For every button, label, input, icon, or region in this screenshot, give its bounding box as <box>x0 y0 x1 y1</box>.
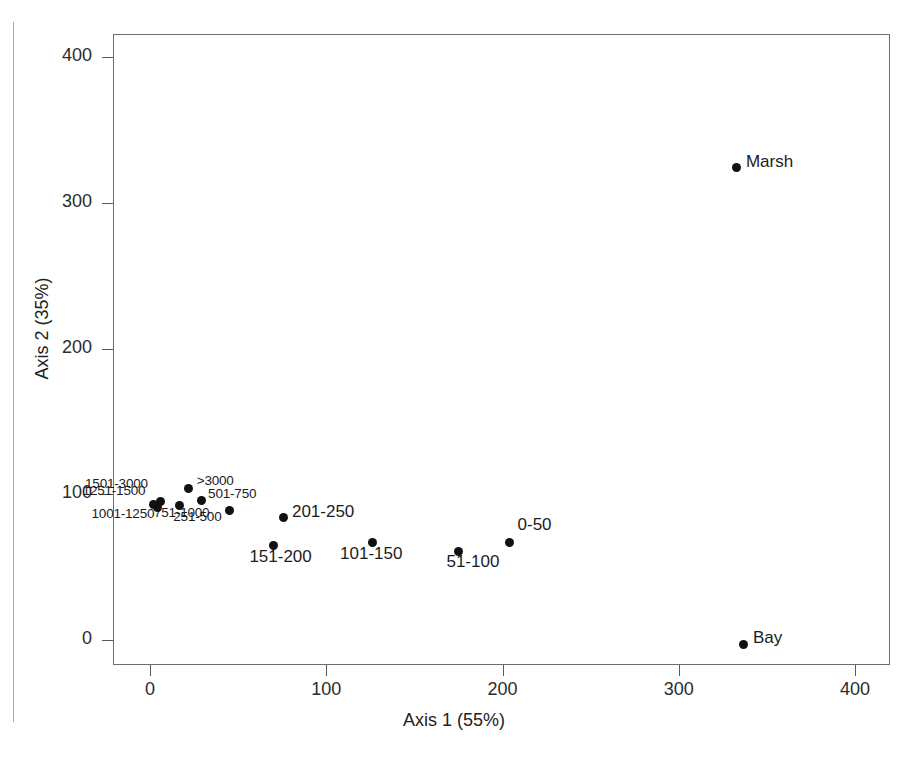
data-point <box>225 506 234 515</box>
data-point-label: 101-150 <box>340 544 402 564</box>
y-axis-title: Axis 2 (35%) <box>32 179 53 479</box>
x-axis-tick-label: 0 <box>145 679 155 700</box>
x-axis-tick-mark <box>150 665 151 676</box>
x-axis-tick-label: 200 <box>487 679 517 700</box>
y-axis-tick-mark <box>102 349 113 350</box>
x-axis-tick-label: 300 <box>664 679 694 700</box>
data-point <box>197 496 206 505</box>
data-point <box>279 513 288 522</box>
data-point <box>505 538 514 547</box>
x-axis-tick-label: 400 <box>840 679 870 700</box>
data-point-label: 201-250 <box>292 502 354 522</box>
x-axis-tick-mark <box>679 665 680 676</box>
scatter-plot-figure: 0100200300400 0100200300400 Axis 1 (55%)… <box>0 0 908 757</box>
data-point-label: 151-200 <box>249 547 311 567</box>
data-point <box>739 640 748 649</box>
y-axis-tick-mark <box>102 640 113 641</box>
y-axis-tick-label: 100 <box>0 482 92 503</box>
data-point <box>184 484 193 493</box>
data-point-label: 1001-1250 <box>92 506 155 521</box>
data-point-label: Marsh <box>746 152 793 172</box>
x-axis-tick-mark <box>503 665 504 676</box>
data-point-label: >3000 <box>197 473 234 488</box>
y-axis-tick-mark <box>102 203 113 204</box>
x-axis-tick-mark <box>326 665 327 676</box>
y-axis-tick-label: 0 <box>0 628 92 649</box>
data-point-label: 0-50 <box>518 515 552 535</box>
data-point-label: 51-100 <box>446 552 499 572</box>
page-edge-rule <box>13 22 14 722</box>
data-point-label: 1501-3000 <box>85 476 148 491</box>
data-point-label: 751-1000 <box>154 505 209 520</box>
data-point <box>732 163 741 172</box>
x-axis-tick-mark <box>855 665 856 676</box>
y-axis-tick-mark <box>102 57 113 58</box>
y-axis-tick-label: 400 <box>0 45 92 66</box>
data-point-label: Bay <box>753 628 782 648</box>
plot-data-area: MarshBay0-5051-100101-150151-200201-2502… <box>113 34 890 665</box>
x-axis-title: Axis 1 (55%) <box>0 710 908 731</box>
x-axis-tick-label: 100 <box>311 679 341 700</box>
